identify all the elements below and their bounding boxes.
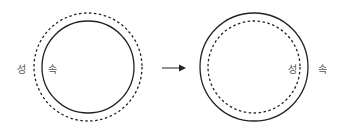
left-diagram: 성 속 [17,13,142,121]
arrow-head-icon [179,65,186,72]
right-inner-dashed-circle [208,21,300,113]
diagram-canvas: 성 속 성 속 [0,0,342,133]
right-diagram: 성 속 [200,13,327,121]
right-outer-label: 속 [318,64,327,75]
transition-arrow [162,65,186,72]
left-outer-label: 성 [17,64,26,75]
right-inner-label: 성 [288,64,297,75]
left-inner-label: 속 [48,64,57,75]
